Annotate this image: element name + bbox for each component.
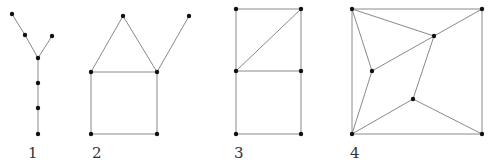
graph-node xyxy=(155,70,159,74)
graph-3-label: 3 xyxy=(234,144,244,162)
graph-node xyxy=(155,132,159,136)
graph-node xyxy=(36,132,40,136)
graph-edge xyxy=(352,9,372,71)
graph-node xyxy=(234,7,238,11)
graph-node xyxy=(234,132,238,136)
graph-edge xyxy=(91,16,123,72)
graph-edge xyxy=(413,99,482,134)
graph-edge xyxy=(236,9,301,71)
graph-node xyxy=(10,12,14,16)
graph-node xyxy=(89,70,93,74)
graph-3 xyxy=(234,7,303,136)
graph-edge xyxy=(434,9,482,36)
graph-node xyxy=(370,69,374,73)
graph-2-label: 2 xyxy=(92,144,102,162)
graph-node xyxy=(36,81,40,85)
graph-node xyxy=(36,56,40,60)
graph-1-label: 1 xyxy=(28,144,38,162)
graph-node xyxy=(299,7,303,11)
graph-edge xyxy=(157,16,189,72)
graph-edge xyxy=(372,36,434,71)
graph-edge xyxy=(12,14,25,35)
graph-4 xyxy=(350,7,484,136)
graph-node xyxy=(23,33,27,37)
graph-4-label: 4 xyxy=(350,144,360,162)
graph-edge xyxy=(123,16,157,72)
graph-edge xyxy=(413,36,434,99)
graph-node xyxy=(234,69,238,73)
graph-edge xyxy=(25,35,38,58)
graph-node xyxy=(432,34,436,38)
graph-node xyxy=(480,7,484,11)
graph-figure: 1 2 3 4 xyxy=(0,0,492,164)
graph-node xyxy=(350,7,354,11)
graph-edge xyxy=(352,9,434,36)
graph-node xyxy=(50,34,54,38)
graph-1 xyxy=(10,12,54,136)
graph-node xyxy=(350,132,354,136)
graph-node xyxy=(480,132,484,136)
graph-node xyxy=(411,97,415,101)
graph-node xyxy=(36,106,40,110)
graph-2 xyxy=(89,14,191,136)
graph-node xyxy=(121,14,125,18)
graph-node xyxy=(299,132,303,136)
graph-edge xyxy=(38,36,52,58)
graph-node xyxy=(89,132,93,136)
graph-node xyxy=(299,69,303,73)
graph-node xyxy=(187,14,191,18)
